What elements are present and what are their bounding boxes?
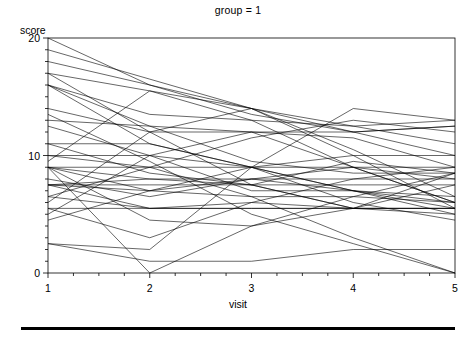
- x-axis-tick-label: 4: [350, 282, 356, 294]
- profile-plot-figure: group = 1 score 0102012345 visit: [0, 0, 476, 339]
- x-axis-label: visit: [0, 298, 476, 310]
- x-axis-tick-label: 2: [147, 282, 153, 294]
- subject-trajectory-line: [48, 38, 455, 144]
- subject-trajectory-line: [48, 120, 455, 173]
- y-axis-tick-label: 10: [28, 150, 40, 162]
- subject-trajectory-line: [48, 62, 455, 133]
- subject-trajectory-line: [48, 167, 455, 273]
- subject-trajectory-line: [48, 167, 455, 220]
- x-axis-tick-label: 1: [45, 282, 51, 294]
- bottom-horizontal-rule: [21, 327, 455, 330]
- x-axis-tick-label: 3: [249, 282, 255, 294]
- y-axis-tick-label: 20: [28, 32, 40, 44]
- plot-area: 0102012345: [0, 0, 476, 339]
- subject-trajectory-line: [48, 244, 455, 262]
- x-axis-tick-label: 5: [452, 282, 458, 294]
- y-axis-tick-label: 0: [34, 267, 40, 279]
